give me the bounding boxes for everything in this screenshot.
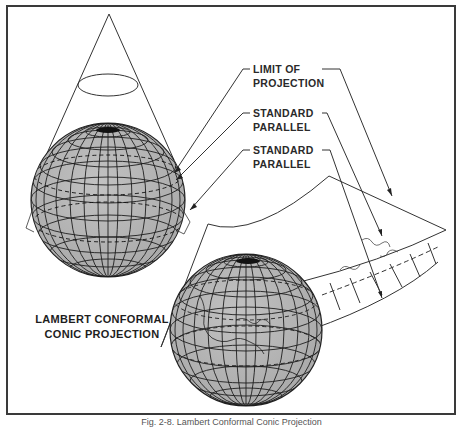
diagram-title: LAMBERT CONFORMAL CONIC PROJECTION xyxy=(22,312,182,342)
top-pole-dark xyxy=(96,127,120,133)
bottom-globe xyxy=(170,254,322,406)
label-standard-parallel-2: STANDARD PARALLEL xyxy=(253,143,314,171)
title-line: CONIC PROJECTION xyxy=(22,327,182,342)
label-standard-parallel-1: STANDARD PARALLEL xyxy=(253,106,314,134)
figure-caption: Fig. 2-8. Lambert Conformal Conic Projec… xyxy=(0,417,463,427)
label-line: PARALLEL xyxy=(253,157,314,171)
title-line: LAMBERT CONFORMAL xyxy=(22,312,182,327)
label-line: STANDARD xyxy=(253,143,314,157)
label-line: PARALLEL xyxy=(253,120,314,134)
label-line: LIMIT OF xyxy=(253,62,324,76)
label-line: PROJECTION xyxy=(253,76,324,90)
label-limit-of-projection: LIMIT OF PROJECTION xyxy=(253,62,324,90)
label-line: STANDARD xyxy=(253,106,314,120)
bottom-pole-dark xyxy=(236,258,260,264)
